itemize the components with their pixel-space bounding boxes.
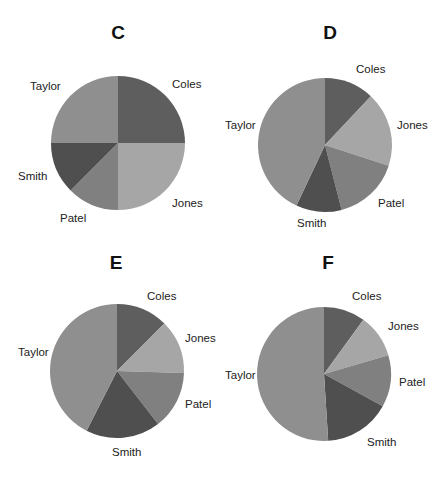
chart-title-e: E (110, 252, 123, 274)
label-smith: Smith (297, 217, 326, 229)
pie-f-svg (224, 240, 447, 478)
label-jones: Jones (397, 119, 428, 131)
chart-title-d: D (323, 22, 337, 44)
chart-title-f: F (322, 252, 334, 274)
label-patel: Patel (378, 197, 404, 209)
label-coles: Coles (172, 78, 201, 90)
label-taylor: Taylor (225, 369, 256, 381)
pie-slice-taylor (257, 307, 328, 441)
label-taylor: Taylor (18, 346, 49, 358)
label-coles: Coles (356, 63, 385, 75)
label-coles: Coles (352, 290, 381, 302)
label-patel: Patel (399, 376, 425, 388)
label-smith: Smith (367, 436, 396, 448)
label-smith: Smith (18, 170, 47, 182)
pie-slice-taylor (51, 76, 118, 143)
label-smith: Smith (112, 446, 141, 458)
pie-chart-f: F Coles Jones Patel Smith Taylor (224, 240, 447, 478)
label-coles: Coles (147, 290, 176, 302)
label-jones: Jones (185, 332, 216, 344)
label-patel: Patel (60, 212, 86, 224)
label-jones: Jones (388, 320, 419, 332)
label-patel: Patel (185, 398, 211, 410)
pie-e-svg (0, 240, 223, 478)
label-taylor: Taylor (225, 119, 256, 131)
label-taylor: Taylor (30, 80, 61, 92)
pie-chart-d: D Coles Jones Patel Smith Taylor (224, 0, 447, 239)
pie-chart-c: C Coles Jones Patel Smith Taylor (0, 0, 223, 239)
pie-chart-e: E Coles Jones Patel Smith Taylor (0, 240, 223, 478)
chart-title-c: C (111, 22, 125, 44)
label-jones: Jones (172, 197, 203, 209)
